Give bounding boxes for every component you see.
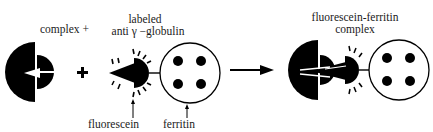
labeled-label: labeled <box>100 13 190 25</box>
iron-core-dot <box>382 53 392 63</box>
result-complex-shape <box>288 40 429 100</box>
result-label-line2: complex <box>300 23 410 35</box>
antibody-wedge <box>109 63 135 83</box>
complex-plus-label: complex + <box>40 23 89 35</box>
labeled-antibody-shape <box>109 49 160 97</box>
iron-core-dot <box>196 79 206 89</box>
anti-gamma-globulin-label: anti γ −globulin <box>98 25 198 37</box>
ferritin-circle <box>160 43 220 103</box>
ferritin-shape <box>160 43 220 103</box>
iron-core-dot <box>405 76 415 86</box>
fluorescein-label: fluorescein <box>88 118 139 130</box>
iron-core-dot <box>173 56 183 66</box>
iron-core-dot <box>382 76 392 86</box>
plus-sign <box>77 67 88 78</box>
antigen-complex-shape <box>5 42 54 102</box>
result-label-line1: fluorescein-ferritin <box>300 11 410 23</box>
result-fluorescein-halfdisc <box>345 56 359 84</box>
reaction-arrow <box>230 65 274 75</box>
result-ferritin-circle <box>369 40 429 100</box>
iron-core-dot <box>173 79 183 89</box>
ferritin-label: ferritin <box>163 118 195 130</box>
iron-core-dot <box>196 56 206 66</box>
iron-core-dot <box>405 53 415 63</box>
